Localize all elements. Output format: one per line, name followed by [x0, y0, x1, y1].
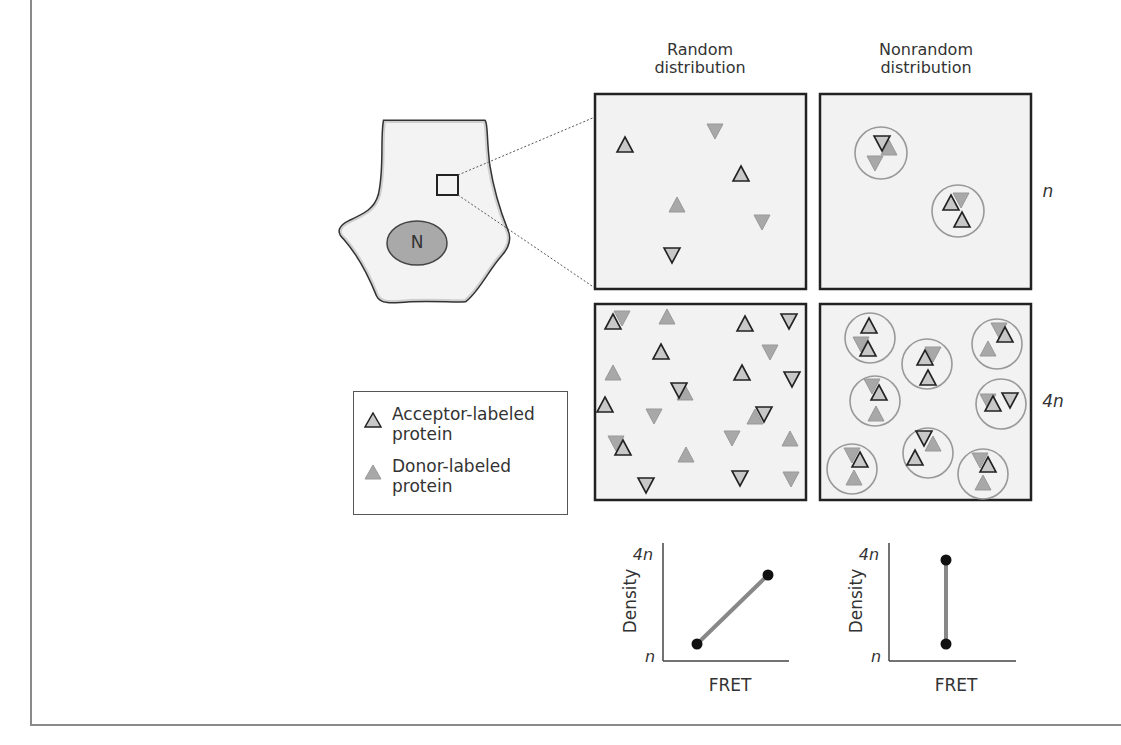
column-header-random-line1: Random: [600, 41, 800, 59]
plot-random: [663, 543, 789, 661]
plot-nonrandom-xlabel: FRET: [916, 676, 996, 694]
legend-item-donor: Donor-labeled protein: [364, 456, 511, 496]
diagram-canvas: [0, 0, 1121, 745]
plot-random-ytick-bottom: n: [640, 648, 660, 666]
legend-item-acceptor: Acceptor-labeled protein: [364, 404, 535, 444]
panel-random-4n: [595, 304, 806, 500]
legend-donor-line1: Donor-labeled: [392, 456, 511, 476]
donor-triangle-icon: [364, 464, 382, 480]
panel-random-n: [595, 94, 806, 289]
row-label-n: n: [1038, 182, 1058, 200]
plot-random-point-4n: [763, 570, 774, 581]
plot-random-xlabel: FRET: [690, 676, 770, 694]
column-header-nonrandom-line1: Nonrandom: [826, 41, 1026, 59]
column-header-nonrandom-line2: distribution: [826, 59, 1026, 77]
plot-nonrandom-ytick-bottom: n: [866, 648, 886, 666]
plot-random-line: [697, 575, 768, 644]
column-header-random-line2: distribution: [600, 59, 800, 77]
column-header-random: Random distribution: [600, 41, 800, 77]
plot-random-point-n: [692, 639, 703, 650]
plot-nonrandom: [889, 543, 1016, 661]
plot-random-ylabel: Density: [621, 561, 639, 641]
column-header-nonrandom: Nonrandom distribution: [826, 41, 1026, 77]
plot-nonrandom-point-4n: [941, 555, 952, 566]
legend: Acceptor-labeled protein Donor-labeled p…: [353, 391, 568, 515]
legend-donor-line2: protein: [392, 476, 511, 496]
cell-illustration: [341, 117, 595, 301]
panel-nonrandom-n: [820, 94, 1031, 289]
legend-acceptor-line2: protein: [392, 424, 535, 444]
plot-nonrandom-ylabel: Density: [847, 561, 865, 641]
nucleus-label: N: [402, 233, 432, 251]
row-label-4n: 4n: [1038, 392, 1068, 410]
legend-acceptor-line1: Acceptor-labeled: [392, 404, 535, 424]
plot-nonrandom-point-n: [941, 639, 952, 650]
acceptor-triangle-icon: [364, 412, 382, 428]
